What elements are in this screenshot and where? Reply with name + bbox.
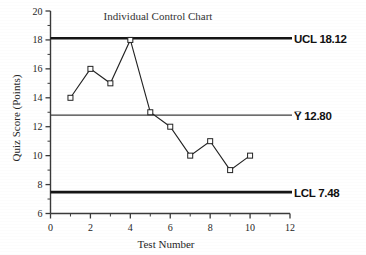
control-limit-label-lcl: LCL 7.48 bbox=[294, 187, 340, 199]
x-tick-label: 10 bbox=[245, 222, 255, 233]
x-tick-label: 2 bbox=[88, 222, 93, 233]
x-tick-label: 12 bbox=[285, 222, 295, 233]
individual-control-chart: Individual Control Chart Quiz Score (Poi… bbox=[0, 0, 366, 255]
y-axis-title-group: Quiz Score (Points) bbox=[10, 74, 23, 161]
data-point-marker: Test 6: 12 bbox=[168, 124, 173, 129]
y-axis-ticks: 68101214161820 bbox=[33, 6, 51, 220]
x-tick-label: 6 bbox=[168, 222, 173, 233]
data-point-marker: Test 8: 11 bbox=[208, 139, 213, 144]
y-tick-label: 12 bbox=[33, 121, 43, 132]
control-limit-labels: UCL 18.12Y̅ 12.80LCL 7.48 bbox=[294, 33, 347, 199]
x-tick-label: 8 bbox=[208, 222, 213, 233]
chart-canvas: Individual Control Chart Quiz Score (Poi… bbox=[0, 0, 366, 255]
y-tick-label: 14 bbox=[33, 92, 43, 103]
series-polyline bbox=[70, 40, 250, 170]
control-limit-label-center: Y̅ 12.80 bbox=[294, 110, 332, 122]
data-point-marker: Test 2: 16 bbox=[88, 66, 93, 71]
data-point-marker: Test 9: 9 bbox=[228, 168, 233, 173]
data-point-marker: Test 5: 13 bbox=[148, 110, 153, 115]
control-limit-label-ucl: UCL 18.12 bbox=[294, 33, 347, 45]
data-point-marker: Test 3: 15 bbox=[108, 81, 113, 86]
x-axis-ticks: 024681012 bbox=[48, 214, 295, 233]
y-axis-title: Quiz Score (Points) bbox=[10, 74, 23, 161]
x-tick-label: 0 bbox=[48, 222, 53, 233]
x-tick-label: 4 bbox=[128, 222, 133, 233]
data-point-marker: Test 7: 10 bbox=[188, 153, 193, 158]
chart-title-group: Individual Control Chart bbox=[104, 10, 213, 22]
y-tick-label: 16 bbox=[33, 63, 43, 74]
x-axis-title-group: Test Number bbox=[138, 238, 195, 250]
y-tick-label: 8 bbox=[38, 179, 43, 190]
data-point-marker: Test 4: 18 bbox=[128, 37, 133, 42]
y-tick-label: 10 bbox=[33, 150, 43, 161]
control-limit-lines bbox=[51, 38, 293, 192]
chart-title: Individual Control Chart bbox=[104, 10, 213, 22]
data-point-marker: Test 1: 14 bbox=[68, 95, 73, 100]
y-tick-label: 6 bbox=[38, 208, 43, 219]
y-tick-label: 20 bbox=[33, 6, 43, 17]
data-series: Test 1: 14Test 2: 16Test 3: 15Test 4: 18… bbox=[68, 37, 253, 172]
y-tick-label: 18 bbox=[33, 34, 43, 45]
data-point-marker: Test 10: 10 bbox=[248, 153, 253, 158]
x-axis-title: Test Number bbox=[138, 238, 195, 250]
